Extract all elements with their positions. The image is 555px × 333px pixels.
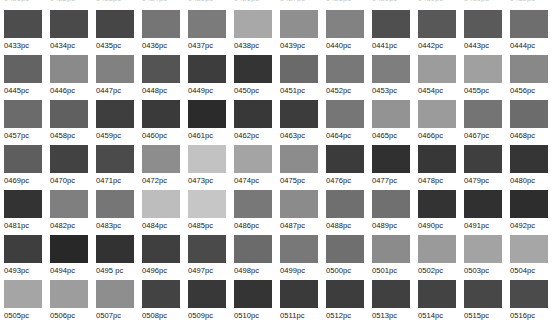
color-chip[interactable] (418, 235, 456, 263)
color-chip[interactable] (372, 145, 410, 173)
swatch-cell[interactable]: 0448pc (142, 55, 188, 100)
color-chip[interactable] (280, 100, 318, 128)
swatch-cell[interactable]: 0486pc (234, 190, 280, 235)
color-chip[interactable] (4, 235, 42, 263)
swatch-cell[interactable]: 0468pc (510, 100, 555, 145)
swatch-cell[interactable]: 0485pc (188, 190, 234, 235)
swatch-cell[interactable]: 0456pc (510, 55, 555, 100)
swatch-cell[interactable]: 0438pc (234, 10, 280, 55)
swatch-cell[interactable]: 0436pc (142, 10, 188, 55)
color-chip[interactable] (4, 55, 42, 83)
color-chip[interactable] (96, 190, 134, 218)
color-chip[interactable] (4, 145, 42, 173)
color-chip[interactable] (188, 55, 226, 83)
swatch-cell[interactable]: 0497pc (188, 235, 234, 280)
swatch-cell[interactable]: 0457pc (4, 100, 50, 145)
color-chip[interactable] (234, 190, 272, 218)
swatch-cell[interactable]: 0481pc (4, 190, 50, 235)
swatch-cell[interactable]: 0477pc (372, 145, 418, 190)
color-chip[interactable] (188, 145, 226, 173)
color-chip[interactable] (280, 235, 318, 263)
color-chip[interactable] (464, 235, 502, 263)
swatch-cell[interactable]: 0483pc (96, 190, 142, 235)
swatch-cell[interactable]: 0441pc (372, 10, 418, 55)
color-chip[interactable] (50, 280, 88, 308)
color-chip[interactable] (372, 55, 410, 83)
swatch-cell[interactable]: 0491pc (464, 190, 510, 235)
swatch-cell[interactable]: 0501pc (372, 235, 418, 280)
swatch-cell[interactable]: 0506pc (50, 280, 96, 325)
swatch-cell[interactable]: 0516pc (510, 280, 555, 325)
swatch-cell[interactable]: 0476pc (326, 145, 372, 190)
swatch-cell[interactable]: 0512pc (326, 280, 372, 325)
color-chip[interactable] (510, 55, 548, 83)
color-chip[interactable] (326, 280, 364, 308)
color-chip[interactable] (4, 190, 42, 218)
color-chip[interactable] (142, 145, 180, 173)
swatch-cell[interactable]: 0445pc (4, 55, 50, 100)
color-chip[interactable] (418, 10, 456, 38)
color-chip[interactable] (96, 10, 134, 38)
swatch-cell[interactable]: 0496pc (142, 235, 188, 280)
swatch-cell[interactable]: 0479pc (464, 145, 510, 190)
color-chip[interactable] (372, 10, 410, 38)
color-chip[interactable] (50, 55, 88, 83)
color-chip[interactable] (96, 280, 134, 308)
color-chip[interactable] (464, 55, 502, 83)
swatch-cell[interactable]: 0502pc (418, 235, 464, 280)
swatch-cell[interactable]: 0511pc (280, 280, 326, 325)
color-chip[interactable] (510, 190, 548, 218)
swatch-cell[interactable]: 0449pc (188, 55, 234, 100)
swatch-cell[interactable]: 0508pc (142, 280, 188, 325)
color-chip[interactable] (326, 145, 364, 173)
swatch-cell[interactable]: 0489pc (372, 190, 418, 235)
color-chip[interactable] (418, 280, 456, 308)
color-chip[interactable] (280, 55, 318, 83)
swatch-cell[interactable]: 0463pc (280, 100, 326, 145)
swatch-cell[interactable]: 0472pc (142, 145, 188, 190)
color-chip[interactable] (188, 100, 226, 128)
color-chip[interactable] (418, 55, 456, 83)
swatch-cell[interactable]: 0439pc (280, 10, 326, 55)
color-chip[interactable] (4, 10, 42, 38)
color-chip[interactable] (96, 55, 134, 83)
color-chip[interactable] (372, 190, 410, 218)
swatch-cell[interactable]: 0450pc (234, 55, 280, 100)
swatch-cell[interactable]: 0482pc (50, 190, 96, 235)
color-chip[interactable] (280, 10, 318, 38)
swatch-cell[interactable]: 0442pc (418, 10, 464, 55)
color-chip[interactable] (96, 235, 134, 263)
swatch-cell[interactable]: 0487pc (280, 190, 326, 235)
color-chip[interactable] (4, 100, 42, 128)
color-chip[interactable] (280, 190, 318, 218)
swatch-cell[interactable]: 0452pc (326, 55, 372, 100)
swatch-cell[interactable]: 0503pc (464, 235, 510, 280)
swatch-cell[interactable]: 0478pc (418, 145, 464, 190)
swatch-cell[interactable]: 0471pc (96, 145, 142, 190)
swatch-cell[interactable]: 0444pc (510, 10, 555, 55)
swatch-cell[interactable]: 0507pc (96, 280, 142, 325)
swatch-cell[interactable]: 0461pc (188, 100, 234, 145)
swatch-cell[interactable]: 0464pc (326, 100, 372, 145)
color-chip[interactable] (280, 280, 318, 308)
color-chip[interactable] (142, 55, 180, 83)
color-chip[interactable] (418, 190, 456, 218)
color-chip[interactable] (50, 145, 88, 173)
color-chip[interactable] (510, 145, 548, 173)
swatch-cell[interactable]: 0460pc (142, 100, 188, 145)
swatch-cell[interactable]: 0465pc (372, 100, 418, 145)
color-chip[interactable] (372, 280, 410, 308)
swatch-cell[interactable]: 0474pc (234, 145, 280, 190)
swatch-cell[interactable]: 0484pc (142, 190, 188, 235)
color-chip[interactable] (50, 10, 88, 38)
swatch-cell[interactable]: 0490pc (418, 190, 464, 235)
swatch-cell[interactable]: 0504pc (510, 235, 555, 280)
color-chip[interactable] (96, 100, 134, 128)
color-chip[interactable] (234, 10, 272, 38)
color-chip[interactable] (142, 235, 180, 263)
color-chip[interactable] (188, 190, 226, 218)
swatch-cell[interactable]: 0480pc (510, 145, 555, 190)
swatch-cell[interactable]: 0454pc (418, 55, 464, 100)
swatch-cell[interactable]: 0455pc (464, 55, 510, 100)
swatch-cell[interactable]: 0467pc (464, 100, 510, 145)
